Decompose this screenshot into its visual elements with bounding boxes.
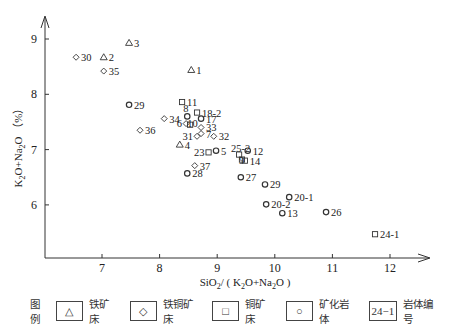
svg-text:11: 11 [327, 261, 339, 275]
data-point-28: 28 [185, 168, 203, 179]
legend-label-mineralized-intrusion: 矿化岩体 [319, 296, 355, 326]
legend-label-copper-deposit: 铜矿床 [245, 296, 272, 326]
data-point-32: 32 [211, 131, 230, 142]
data-point-23: 23 [194, 147, 211, 158]
legend: 图例 △ 铁矿床 ◇ 铁铜矿床 □ 铜矿床 ○ 矿化岩体 24−1 岩体编号 [0, 293, 453, 323]
data-point-2: 2 [100, 52, 114, 63]
legend-label-iron-deposit: 铁矿床 [89, 296, 116, 326]
svg-text:8: 8 [31, 87, 37, 101]
svg-text:17: 17 [206, 114, 217, 125]
svg-text:13: 13 [287, 208, 298, 219]
svg-text:35: 35 [109, 66, 120, 77]
svg-text:14: 14 [250, 156, 261, 167]
intrusion-number-sample: 24−1 [369, 301, 398, 321]
data-point-26: 26 [323, 207, 341, 218]
data-point-7: 7 [198, 129, 211, 140]
legend-title: 图例 [30, 296, 48, 326]
data-point-5: 5 [213, 146, 226, 157]
data-point-3: 3 [126, 38, 140, 49]
svg-text:31: 31 [183, 131, 194, 142]
svg-text:12: 12 [384, 261, 396, 275]
svg-text:SiO2/ ( K2O+Na2O ): SiO2/ ( K2O+Na2O ) [200, 276, 291, 291]
svg-text:27: 27 [246, 172, 256, 183]
svg-text:10: 10 [269, 261, 281, 275]
data-point-35: 35 [101, 66, 120, 77]
data-point-29: 29 [262, 179, 280, 190]
svg-text:9: 9 [214, 261, 220, 275]
svg-text:28: 28 [192, 168, 203, 179]
svg-text:12: 12 [253, 146, 264, 157]
data-point-27: 27 [238, 172, 256, 183]
svg-text:7: 7 [99, 261, 105, 275]
svg-text:6: 6 [31, 198, 37, 212]
svg-text:8: 8 [157, 261, 163, 275]
svg-text:11: 11 [187, 97, 197, 108]
svg-text:1: 1 [196, 65, 201, 76]
data-point-20-1: 20-1 [287, 192, 314, 203]
legend-label-intrusion-number: 岩体编号 [403, 296, 439, 326]
svg-text:24-1: 24-1 [380, 229, 399, 240]
svg-text:29: 29 [270, 179, 281, 190]
data-point-24-1: 24-1 [372, 229, 399, 240]
svg-text:36: 36 [145, 125, 156, 136]
svg-text:6: 6 [177, 118, 182, 129]
svg-text:9: 9 [239, 155, 244, 166]
svg-text:8: 8 [183, 103, 188, 114]
data-point-30: 30 [73, 52, 92, 63]
svg-text:7: 7 [206, 129, 211, 140]
svg-text:30: 30 [81, 52, 92, 63]
data-point-9: 9 [239, 155, 245, 166]
diamond-icon: ◇ [130, 301, 157, 321]
data-point-1: 1 [188, 65, 202, 76]
svg-text:7: 7 [31, 143, 37, 157]
svg-text:9: 9 [31, 32, 37, 46]
data-point-29: 29 [126, 100, 144, 111]
svg-text:2: 2 [109, 52, 114, 63]
triangle-icon: △ [56, 301, 83, 321]
circle-icon: ○ [286, 301, 313, 321]
svg-text:20-1: 20-1 [294, 192, 313, 203]
legend-label-iron-copper-deposit: 铁铜矿床 [163, 296, 199, 326]
svg-text:26: 26 [331, 207, 342, 218]
data-point-31: 31 [183, 131, 201, 142]
data-point-14: 14 [242, 156, 261, 167]
svg-text:29: 29 [134, 100, 145, 111]
svg-text:5: 5 [221, 146, 226, 157]
data-point-36: 36 [137, 125, 156, 136]
scatter-chart: 6789789101112SiO2/ ( K2O+Na2O )K2O+Na2O … [0, 0, 453, 330]
svg-text:3: 3 [134, 38, 139, 49]
square-icon: □ [212, 301, 239, 321]
svg-text:32: 32 [219, 131, 230, 142]
svg-text:K2O+Na2O （%）: K2O+Na2O （%） [12, 103, 27, 188]
svg-text:23: 23 [194, 147, 205, 158]
data-points: 12343035343663331732371118-2102325-29142… [73, 38, 399, 240]
